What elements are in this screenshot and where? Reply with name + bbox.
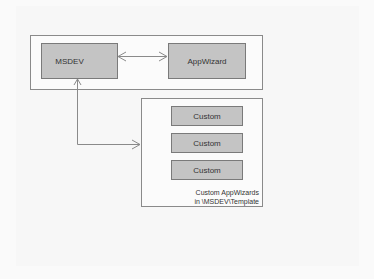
msdev-custom-connector bbox=[78, 79, 141, 145]
connector-layer bbox=[0, 0, 374, 279]
